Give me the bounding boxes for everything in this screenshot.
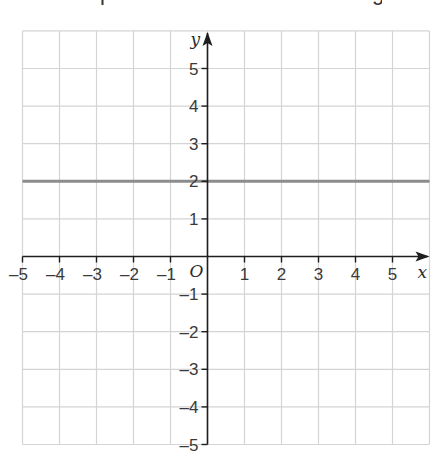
y-axis-label: y <box>190 29 201 49</box>
x-axis-label: x <box>418 262 428 282</box>
y-tick-label: –4 <box>180 398 199 417</box>
tick-labels: –5–4–3–2–11234554321–1–2–3–4–5xyO <box>9 29 427 455</box>
y-tick-label: 3 <box>189 135 198 154</box>
x-tick-label: 2 <box>277 265 286 284</box>
x-tick-label: 5 <box>388 265 397 284</box>
y-tick-label: 1 <box>189 210 198 229</box>
y-tick-label: –5 <box>180 436 199 455</box>
x-tick-label: 4 <box>351 265 360 284</box>
y-tick-label: –2 <box>180 323 199 342</box>
x-tick-label: –2 <box>120 265 139 284</box>
y-tick-label: –1 <box>180 285 199 304</box>
coordinate-graph: –5–4–3–2–11234554321–1–2–3–4–5xyO <box>0 0 441 466</box>
x-tick-label: –4 <box>46 265 65 284</box>
x-tick-label: –3 <box>83 265 102 284</box>
y-tick-label: 5 <box>189 60 198 79</box>
x-tick-label: 1 <box>240 265 249 284</box>
axes <box>23 32 430 445</box>
x-tick-label: –5 <box>9 265 28 284</box>
y-tick-label: 2 <box>189 172 198 191</box>
origin-label: O <box>190 261 204 281</box>
y-tick-label: 4 <box>189 97 198 116</box>
x-tick-label: 3 <box>314 265 323 284</box>
x-tick-label: –1 <box>157 265 176 284</box>
grid-lines <box>23 31 430 445</box>
y-tick-label: –3 <box>180 360 199 379</box>
